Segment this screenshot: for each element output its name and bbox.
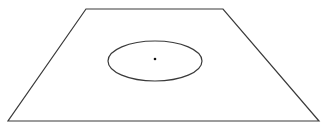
center-point <box>154 58 157 61</box>
diagram-canvas <box>0 0 327 132</box>
background <box>0 0 327 132</box>
